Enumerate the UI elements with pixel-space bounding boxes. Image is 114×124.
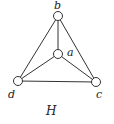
node-b: [54, 12, 63, 21]
node-label-d: d: [8, 88, 15, 101]
edge-d-c: [18, 81, 96, 82]
node-label-c: c: [96, 88, 102, 101]
graph-diagram: b a d c H: [0, 0, 114, 124]
node-d: [14, 77, 23, 86]
graph-caption: H: [45, 104, 57, 118]
edge-b-d: [18, 16, 58, 81]
edge-b-c: [58, 16, 96, 82]
edges: [18, 16, 96, 82]
edge-a-d: [18, 54, 58, 81]
node-label-b: b: [54, 0, 61, 12]
node-c: [92, 78, 101, 87]
node-label-a: a: [67, 46, 74, 59]
node-a: [54, 50, 63, 59]
edge-a-c: [58, 54, 96, 82]
